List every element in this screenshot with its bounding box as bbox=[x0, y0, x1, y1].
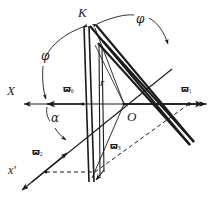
vector-diagram-figure: K O X x′ r α φ φ ϖ0 ϖ1 ϖ2 ϖ3 bbox=[0, 0, 214, 204]
label-vector-omega-1: ϖ1 bbox=[181, 85, 192, 95]
omega-1-glyph: ϖ bbox=[181, 84, 189, 94]
label-axis-x-prime: x′ bbox=[8, 164, 16, 176]
omega-0-subscript: 0 bbox=[71, 88, 74, 94]
omega-3-glyph: ϖ bbox=[110, 141, 118, 151]
label-angle-alpha: α bbox=[51, 112, 59, 124]
omega-2-glyph: ϖ bbox=[32, 147, 40, 157]
omega-0-glyph: ϖ bbox=[63, 84, 71, 94]
label-angle-phi-left: φ bbox=[41, 50, 49, 62]
vector-omega-3 bbox=[96, 45, 104, 180]
diagram-canvas bbox=[0, 0, 214, 204]
omega-3-subscript: 3 bbox=[118, 145, 121, 151]
omega-2-subscript: 2 bbox=[40, 151, 43, 157]
segment-r-and-triangle bbox=[92, 28, 124, 178]
label-radius-r: r bbox=[100, 77, 104, 88]
label-point-k: K bbox=[78, 6, 87, 19]
label-vector-omega-2: ϖ2 bbox=[32, 148, 43, 158]
label-axis-x: X bbox=[7, 84, 15, 97]
vector-omega-0 bbox=[47, 103, 85, 106]
label-angle-phi-right: φ bbox=[136, 13, 144, 25]
label-vector-omega-3: ϖ3 bbox=[110, 142, 121, 152]
omega-1-subscript: 1 bbox=[189, 88, 192, 94]
label-vector-omega-0: ϖ0 bbox=[63, 85, 74, 95]
label-point-o: O bbox=[127, 110, 136, 123]
